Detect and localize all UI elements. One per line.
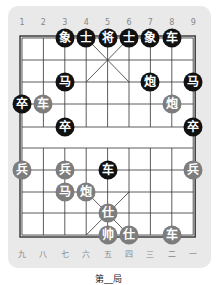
column-label-top: 4 xyxy=(79,18,93,27)
red-piece[interactable]: 马 xyxy=(55,183,74,202)
column-label-bottom: 八 xyxy=(36,248,50,259)
red-piece[interactable]: 炮 xyxy=(77,183,96,202)
black-piece[interactable]: 马 xyxy=(55,73,74,92)
black-piece[interactable]: 象 xyxy=(55,29,74,48)
black-piece[interactable]: 将 xyxy=(98,29,117,48)
red-piece[interactable]: 车 xyxy=(34,95,53,114)
black-piece[interactable]: 车 xyxy=(162,29,181,48)
column-label-top: 8 xyxy=(165,18,179,27)
column-label-top: 1 xyxy=(15,18,29,27)
black-piece[interactable]: 士 xyxy=(120,29,139,48)
red-piece[interactable]: 兵 xyxy=(13,161,32,180)
column-label-top: 7 xyxy=(143,18,157,27)
column-label-top: 5 xyxy=(101,18,115,27)
column-label-top: 6 xyxy=(122,18,136,27)
red-piece[interactable]: 仕 xyxy=(98,204,117,223)
caption: 第__局 xyxy=(0,272,217,285)
column-label-bottom: 三 xyxy=(143,248,157,259)
black-piece[interactable]: 炮 xyxy=(141,73,160,92)
red-piece[interactable]: 兵 xyxy=(55,161,74,180)
black-piece[interactable]: 士 xyxy=(77,29,96,48)
red-piece[interactable]: 仕 xyxy=(120,226,139,245)
column-label-bottom: 七 xyxy=(58,248,72,259)
column-label-bottom: 五 xyxy=(101,248,115,259)
column-label-bottom: 六 xyxy=(79,248,93,259)
red-piece[interactable]: 兵 xyxy=(184,161,203,180)
black-piece[interactable]: 卒 xyxy=(13,95,32,114)
red-piece[interactable]: 车 xyxy=(162,226,181,245)
column-label-bottom: 九 xyxy=(15,248,29,259)
black-piece[interactable]: 象 xyxy=(141,29,160,48)
black-piece[interactable]: 卒 xyxy=(55,118,74,137)
column-label-top: 3 xyxy=(58,18,72,27)
column-label-bottom: 二 xyxy=(165,248,179,259)
column-label-top: 2 xyxy=(36,18,50,27)
column-label-bottom: 四 xyxy=(122,248,136,259)
red-piece[interactable]: 帅 xyxy=(98,226,117,245)
black-piece[interactable]: 马 xyxy=(184,73,203,92)
black-piece[interactable]: 车 xyxy=(98,161,117,180)
column-label-top: 9 xyxy=(186,18,200,27)
column-label-bottom: 一 xyxy=(186,248,200,259)
black-piece[interactable]: 卒 xyxy=(184,118,203,137)
red-piece[interactable]: 炮 xyxy=(162,95,181,114)
